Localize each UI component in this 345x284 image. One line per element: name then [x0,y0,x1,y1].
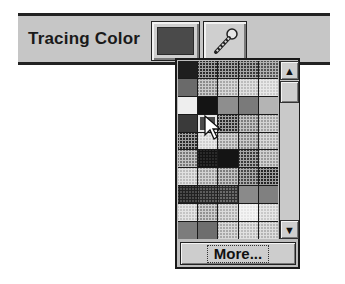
color-swatch-cell[interactable] [178,79,197,96]
color-swatch-cell[interactable] [218,186,237,203]
color-swatch-cell[interactable] [259,150,278,167]
color-swatch-cell[interactable] [259,79,278,96]
color-swatch-cell[interactable] [218,79,237,96]
color-swatch-cell[interactable] [178,97,197,114]
color-swatch-cell[interactable] [198,150,217,167]
color-swatch-cell[interactable] [239,133,258,150]
color-swatch-cell[interactable] [178,115,197,132]
arrow-up-icon: ▲ [284,65,295,77]
color-swatch-cell[interactable] [218,204,237,221]
color-swatch-cell[interactable] [239,79,258,96]
color-swatch-cell[interactable] [259,222,278,239]
color-palette-popup: ▲ ▼ More... [175,58,300,269]
color-swatch-cell[interactable] [259,168,278,185]
color-swatch-cell[interactable] [259,97,278,114]
color-swatch-cell[interactable] [259,204,278,221]
color-swatch-cell[interactable] [178,133,197,150]
color-swatch-cell[interactable] [178,222,197,239]
color-swatch-cell[interactable] [198,97,217,114]
color-swatch-cell[interactable] [239,222,258,239]
scroll-thumb[interactable] [280,81,299,103]
color-swatch-cell[interactable] [259,61,278,78]
scroll-down-button[interactable]: ▼ [280,220,299,239]
more-colors-button[interactable]: More... [180,242,296,265]
color-swatch-cell[interactable] [218,222,237,239]
scroll-up-button[interactable]: ▲ [280,61,299,80]
color-grid [178,61,278,239]
color-swatch-cell[interactable] [178,61,197,78]
color-swatch-cell[interactable] [259,115,278,132]
color-swatch-cell[interactable] [198,222,217,239]
mouse-pointer-icon [204,115,222,141]
color-swatch-cell[interactable] [239,186,258,203]
color-swatch-cell[interactable] [239,97,258,114]
color-swatch-cell[interactable] [218,97,237,114]
color-swatch-cell[interactable] [218,168,237,185]
color-swatch-cell[interactable] [178,186,197,203]
color-swatch-cell[interactable] [259,133,278,150]
color-swatch-cell[interactable] [218,150,237,167]
arrow-down-icon: ▼ [284,224,295,236]
color-swatch-cell[interactable] [198,168,217,185]
eyedropper-button[interactable] [203,21,247,61]
color-swatch-cell[interactable] [198,186,217,203]
color-swatch-cell[interactable] [178,168,197,185]
eyedropper-icon [210,26,242,58]
palette-scrollbar[interactable]: ▲ ▼ [279,61,299,239]
current-color-swatch [157,27,194,55]
color-swatch-cell[interactable] [239,61,258,78]
color-swatch-cell[interactable] [198,79,217,96]
color-swatch-cell[interactable] [218,61,237,78]
color-swatch-cell[interactable] [239,150,258,167]
color-swatch-cell[interactable] [239,204,258,221]
color-swatch-cell[interactable] [239,168,258,185]
color-swatch-cell[interactable] [178,204,197,221]
color-swatch-cell[interactable] [198,204,217,221]
tracing-color-label: Tracing Color [28,29,140,49]
color-swatch-cell[interactable] [178,150,197,167]
color-swatch-button[interactable] [151,21,200,61]
color-swatch-cell[interactable] [239,115,258,132]
more-colors-label: More... [207,245,269,263]
color-swatch-cell[interactable] [198,61,217,78]
color-swatch-cell[interactable] [259,186,278,203]
